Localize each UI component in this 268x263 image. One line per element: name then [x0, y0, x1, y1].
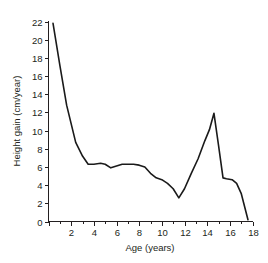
x-tick-label: 6 — [115, 227, 120, 238]
x-tick-label: 8 — [137, 227, 142, 238]
y-tick-label: 10 — [32, 126, 43, 137]
x-tick-label: 14 — [202, 227, 213, 238]
x-tick-label: 16 — [225, 227, 236, 238]
x-tick-label: 12 — [180, 227, 191, 238]
y-tick-label: 12 — [32, 107, 43, 118]
y-tick-label: 6 — [37, 162, 42, 173]
x-tick-label: 2 — [69, 227, 74, 238]
y-axis-ticks — [45, 23, 49, 223]
chart-canvas: 0246810121416182022 24681012141618 Age (… — [0, 0, 268, 263]
y-axis-title: Height gain (cm/year) — [11, 76, 22, 167]
y-axis-tick-labels: 0246810121416182022 — [32, 17, 43, 228]
y-tick-label: 0 — [37, 217, 42, 228]
y-tick-label: 22 — [32, 17, 43, 28]
x-tick-label: 4 — [92, 227, 97, 238]
height-velocity-line — [53, 23, 248, 219]
x-tick-label: 18 — [248, 227, 259, 238]
y-tick-label: 20 — [32, 35, 43, 46]
x-tick-label: 10 — [157, 227, 168, 238]
height-velocity-chart: 0246810121416182022 24681012141618 Age (… — [0, 0, 268, 263]
y-tick-label: 16 — [32, 71, 43, 82]
y-tick-label: 4 — [37, 180, 42, 191]
x-axis-title: Age (years) — [125, 242, 174, 253]
y-tick-label: 14 — [32, 89, 43, 100]
x-axis-tick-labels: 24681012141618 — [69, 227, 259, 238]
y-tick-label: 18 — [32, 53, 43, 64]
y-tick-label: 2 — [37, 198, 42, 209]
y-tick-label: 8 — [37, 144, 42, 155]
